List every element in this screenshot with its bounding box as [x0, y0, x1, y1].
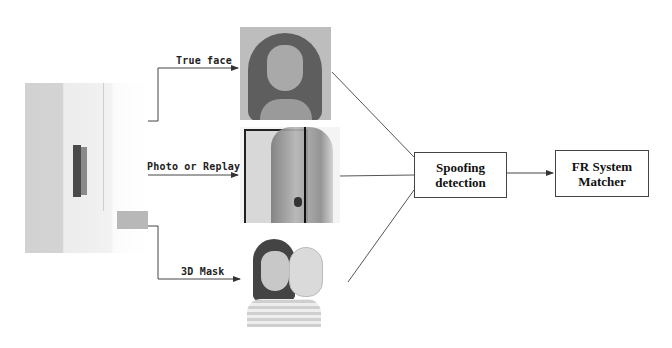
- label-true-face: True face: [176, 55, 232, 66]
- photo-replay-attack-image: [240, 127, 340, 223]
- shirt-shape: [247, 299, 321, 327]
- spoofing-detection-box: Spoofing detection: [414, 152, 507, 198]
- spoofing-line-2: detection: [435, 175, 486, 190]
- fr-system-matcher-box: FR System Matcher: [555, 150, 649, 197]
- man-face-shape: [271, 127, 333, 223]
- face-recognition-kiosk-image: [25, 83, 148, 253]
- kiosk-screen: [81, 147, 87, 195]
- genuine-face-image: [240, 27, 331, 120]
- mask-shape: [289, 247, 323, 297]
- wall-edge: [103, 83, 104, 211]
- fr-line-2: Matcher: [572, 174, 632, 189]
- fr-line-1: FR System: [572, 159, 632, 174]
- phone-edge: [304, 127, 306, 223]
- wall-shadow: [25, 83, 63, 253]
- floor-step: [117, 211, 148, 229]
- mouth-shape: [294, 197, 302, 207]
- face-shape: [267, 45, 303, 91]
- girl-face-shape: [261, 251, 289, 291]
- spoofing-line-1: Spoofing: [435, 160, 486, 175]
- label-photo-or-replay: Photo or Replay: [147, 161, 240, 172]
- label-3d-mask: 3D Mask: [181, 266, 225, 277]
- mask-attack-image: [243, 237, 323, 329]
- kiosk-device-icon: [73, 145, 81, 197]
